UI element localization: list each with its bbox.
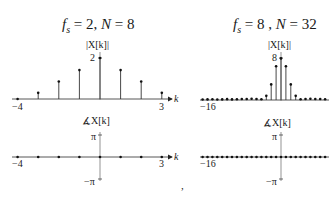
left-magnitude-plot	[12, 52, 172, 100]
right-phase-plot	[200, 132, 329, 181]
plots-canvas	[0, 0, 329, 199]
right-magnitude-plot	[200, 52, 329, 101]
left-phase-plot	[12, 132, 172, 181]
